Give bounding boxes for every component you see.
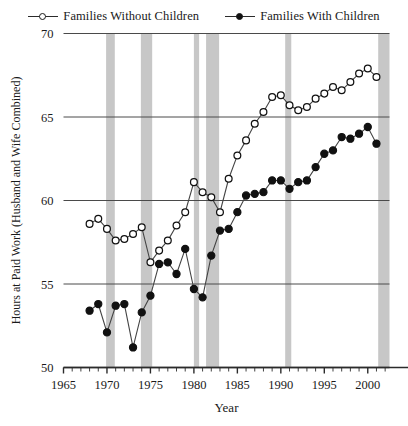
data-point-filled — [242, 192, 249, 199]
data-point-open — [260, 109, 267, 116]
chart-root: Families Without Children Families With … — [0, 0, 408, 426]
data-point-filled — [321, 150, 328, 157]
plot-area: 5055606570196519701975198019851990199520… — [0, 0, 408, 426]
data-point-filled — [138, 309, 145, 316]
data-point-filled — [373, 140, 380, 147]
data-point-open — [277, 92, 284, 99]
x-tick-label-1980: 1980 — [181, 378, 206, 392]
y-tick-label-60: 60 — [41, 194, 54, 208]
data-point-open — [217, 209, 224, 216]
data-point-open — [321, 90, 328, 97]
data-point-open — [269, 94, 276, 101]
y-tick-label-50: 50 — [41, 361, 54, 375]
x-tick-label-1990: 1990 — [268, 378, 293, 392]
x-tick-label-1975: 1975 — [138, 378, 163, 392]
data-point-open — [147, 259, 154, 266]
x-tick-label-1965: 1965 — [51, 378, 76, 392]
data-point-filled — [147, 292, 154, 299]
data-point-filled — [277, 177, 284, 184]
data-point-open — [373, 74, 380, 81]
data-point-filled — [364, 123, 371, 130]
series-families-with-children — [86, 123, 380, 351]
x-tick-label-2000: 2000 — [355, 378, 380, 392]
data-point-open — [112, 237, 119, 244]
data-point-open — [295, 107, 302, 114]
series-families-without-children — [86, 65, 380, 266]
data-point-filled — [164, 259, 171, 266]
data-point-open — [138, 224, 145, 231]
data-point-open — [225, 175, 232, 182]
data-point-filled — [156, 260, 163, 267]
data-point-filled — [121, 300, 128, 307]
y-tick-label-65: 65 — [41, 111, 54, 125]
data-point-open — [312, 95, 319, 102]
data-point-filled — [355, 130, 362, 137]
data-point-filled — [251, 190, 258, 197]
line-chart-svg: 5055606570196519701975198019851990199520… — [0, 0, 408, 426]
x-tick-label-1970: 1970 — [94, 378, 119, 392]
data-point-open — [234, 152, 241, 159]
data-point-filled — [338, 133, 345, 140]
y-axis-title: Hours at Paid Work (Husband and Wife Com… — [9, 77, 23, 325]
data-point-open — [95, 215, 102, 222]
data-point-open — [164, 237, 171, 244]
data-point-open — [104, 225, 111, 232]
data-point-filled — [95, 300, 102, 307]
data-point-filled — [347, 135, 354, 142]
data-point-filled — [86, 307, 93, 314]
data-point-open — [121, 236, 128, 243]
data-point-open — [251, 120, 258, 127]
data-point-filled — [303, 177, 310, 184]
data-point-filled — [190, 285, 197, 292]
data-point-open — [304, 104, 311, 111]
data-point-open — [356, 70, 363, 77]
data-point-filled — [269, 177, 276, 184]
data-point-open — [199, 189, 206, 196]
data-point-filled — [112, 302, 119, 309]
data-point-open — [156, 247, 163, 254]
x-axis-title: Year — [215, 400, 240, 415]
data-point-filled — [260, 189, 267, 196]
data-point-open — [338, 87, 345, 94]
data-point-open — [286, 102, 293, 109]
data-point-open — [130, 231, 137, 238]
y-tick-label-55: 55 — [41, 278, 54, 292]
x-tick-label-1995: 1995 — [312, 378, 337, 392]
data-point-open — [208, 194, 215, 201]
y-tick-label-70: 70 — [41, 27, 54, 41]
data-point-open — [86, 220, 93, 227]
data-point-open — [173, 222, 180, 229]
x-tick-label-1985: 1985 — [225, 378, 250, 392]
data-point-filled — [199, 294, 206, 301]
data-point-filled — [295, 179, 302, 186]
data-point-filled — [286, 185, 293, 192]
data-point-filled — [234, 209, 241, 216]
data-point-open — [347, 79, 354, 86]
data-point-open — [243, 137, 250, 144]
data-point-open — [330, 84, 337, 91]
data-point-filled — [216, 227, 223, 234]
data-point-filled — [329, 147, 336, 154]
data-point-filled — [312, 164, 319, 171]
data-point-filled — [173, 270, 180, 277]
data-point-filled — [129, 344, 136, 351]
data-point-open — [364, 65, 371, 72]
data-point-filled — [208, 252, 215, 259]
data-point-filled — [182, 245, 189, 252]
data-point-open — [191, 179, 198, 186]
data-point-open — [182, 209, 189, 216]
data-point-filled — [103, 329, 110, 336]
data-point-filled — [225, 225, 232, 232]
